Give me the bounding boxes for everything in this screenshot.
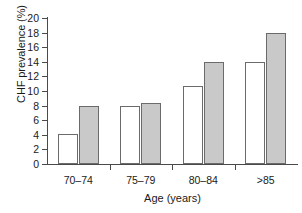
x-axis-tick-label: 75–79 bbox=[106, 174, 176, 186]
y-axis-tick-label: 18 bbox=[0, 28, 39, 38]
y-axis-tick-label: 16 bbox=[0, 42, 39, 52]
bar-gray-bar-3 bbox=[266, 33, 286, 164]
y-axis-tick-label: 4 bbox=[0, 130, 39, 140]
x-axis-tick-label: 80–84 bbox=[168, 174, 238, 186]
x-axis-tick bbox=[110, 165, 111, 170]
plot-area bbox=[47, 18, 297, 164]
bar-white-bar-3 bbox=[245, 62, 265, 164]
bar-white-bar-0 bbox=[58, 134, 78, 164]
y-axis-tick-label: 0 bbox=[0, 159, 39, 169]
bar-white-bar-1 bbox=[120, 106, 140, 164]
y-axis-tick bbox=[42, 164, 47, 165]
bar-gray-bar-0 bbox=[79, 106, 99, 164]
x-axis-title: Age (years) bbox=[47, 192, 298, 204]
x-axis-tick bbox=[235, 165, 236, 170]
bar-white-bar-2 bbox=[183, 86, 203, 164]
bar-gray-bar-2 bbox=[204, 62, 224, 164]
y-axis-tick-label: 8 bbox=[0, 101, 39, 111]
y-axis-tick-label: 10 bbox=[0, 86, 39, 96]
y-axis-tick-label: 20 bbox=[0, 13, 39, 23]
bar-gray-bar-1 bbox=[141, 103, 161, 164]
x-axis-tick-label: >85 bbox=[231, 174, 301, 186]
x-axis-tick bbox=[172, 165, 173, 170]
chart-figure: CHF prevalence (%) 02468101214161820 70–… bbox=[0, 0, 302, 213]
y-axis-tick-label: 12 bbox=[0, 71, 39, 81]
y-axis-tick-label: 2 bbox=[0, 144, 39, 154]
y-axis-tick-label: 6 bbox=[0, 115, 39, 125]
x-axis-tick-label: 70–74 bbox=[43, 174, 113, 186]
y-axis-tick-label: 14 bbox=[0, 57, 39, 67]
